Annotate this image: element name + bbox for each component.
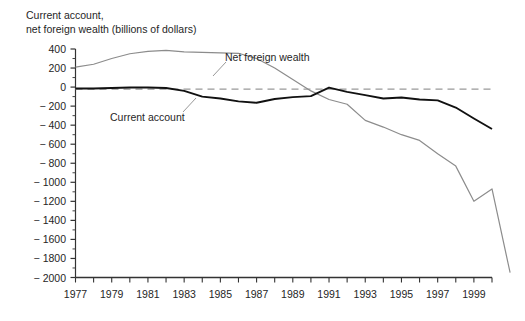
- y-tick-label: − 1400: [14, 214, 66, 226]
- y-tick-label: − 1600: [14, 233, 66, 245]
- y-tick-label: 400: [14, 43, 66, 55]
- plot-area: [0, 0, 525, 321]
- y-tick-label: − 2000: [14, 272, 66, 284]
- x-tick-label: 1983: [164, 288, 204, 300]
- y-tick-label: − 1800: [14, 252, 66, 264]
- x-tick-label: 1989: [273, 288, 313, 300]
- y-tick-label: 0: [14, 81, 66, 93]
- x-tick-label: 1985: [200, 288, 240, 300]
- y-axis-major-ticks: [71, 49, 76, 278]
- y-tick-label: − 600: [14, 138, 66, 150]
- x-axis-ticks: [76, 278, 493, 283]
- x-tick-label: 1987: [237, 288, 277, 300]
- x-tick-label: 1979: [92, 288, 132, 300]
- chart-figure: Current account, net foreign wealth (bil…: [0, 0, 525, 321]
- series-annotation-current-account: Current account: [110, 111, 185, 123]
- x-tick-label: 1995: [381, 288, 421, 300]
- y-tick-label: 200: [14, 62, 66, 74]
- series-annotation-net-foreign-wealth: Net foreign wealth: [225, 51, 310, 63]
- x-tick-label: 1977: [56, 288, 96, 300]
- y-tick-label: − 1200: [14, 195, 66, 207]
- leader-line-current-account: [183, 98, 196, 112]
- leader-line-net-foreign-wealth: [213, 62, 226, 76]
- y-tick-label: − 200: [14, 100, 66, 112]
- x-tick-label: 1981: [128, 288, 168, 300]
- y-tick-label: − 400: [14, 119, 66, 131]
- y-tick-label: − 1000: [14, 176, 66, 188]
- x-tick-label: 1999: [454, 288, 494, 300]
- y-tick-label: − 800: [14, 157, 66, 169]
- series-line-net-foreign-wealth: [76, 50, 511, 272]
- x-tick-label: 1997: [418, 288, 458, 300]
- x-tick-label: 1993: [345, 288, 385, 300]
- x-tick-label: 1991: [309, 288, 349, 300]
